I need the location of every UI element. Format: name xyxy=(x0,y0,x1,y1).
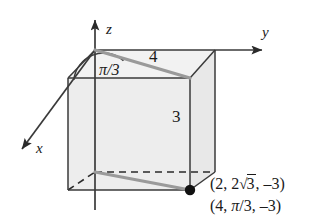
cylindrical-coordinates-label: (4, π/3, –3) xyxy=(210,198,281,214)
height-length-label: 3 xyxy=(172,108,181,125)
angle-label: π/3 xyxy=(99,62,119,78)
radial-length-label: 4 xyxy=(149,48,158,65)
x-axis-label: x xyxy=(36,141,43,156)
cylindrical-prefix: (4, xyxy=(210,197,231,214)
square-root-icon: √3 xyxy=(239,176,255,192)
rectangular-suffix: , –3) xyxy=(256,175,285,192)
plotted-point xyxy=(185,185,195,195)
rectangular-coordinates-label: (2, 2√3, –3) xyxy=(210,176,285,192)
box-shading xyxy=(68,50,215,190)
z-axis-label: z xyxy=(106,22,112,37)
box-front-face xyxy=(68,78,190,190)
rectangular-prefix: (2, 2 xyxy=(210,175,239,192)
figure-canvas: z y x π/3 4 3 (2, 2√3, –3) (4, π/3, –3) xyxy=(0,0,317,224)
y-axis-label: y xyxy=(262,25,269,40)
cylindrical-suffix: /3, –3) xyxy=(239,197,281,214)
